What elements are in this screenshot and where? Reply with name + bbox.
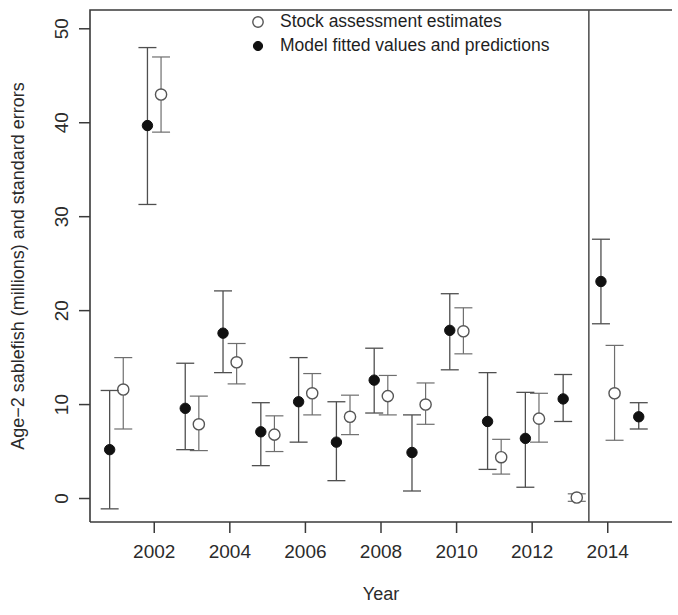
- data-point-1-2009: [407, 447, 417, 457]
- x-tick-label-2010: 2010: [435, 541, 477, 562]
- data-point-0-2001: [118, 384, 129, 395]
- x-tick-label-2002: 2002: [133, 541, 175, 562]
- y-axis-title: Age−2 sablefish (millions) and standard …: [8, 82, 28, 450]
- x-tick-label-2012: 2012: [511, 541, 553, 562]
- data-point-1-2012: [520, 433, 530, 443]
- chart-figure: 010203040502002200420062008201020122014Y…: [0, 0, 678, 615]
- y-tick-label-40: 40: [51, 112, 72, 133]
- y-tick-label-50: 50: [51, 18, 72, 39]
- data-point-0-2009: [420, 399, 431, 410]
- data-point-1-2004: [218, 328, 228, 338]
- data-point-0-2002: [155, 89, 166, 100]
- legend-label-0: Stock assessment estimates: [280, 11, 502, 31]
- legend-label-1: Model fitted values and predictions: [280, 35, 550, 55]
- data-point-0-2014: [609, 388, 620, 399]
- data-point-1-2014: [596, 276, 606, 286]
- data-point-1-2002: [142, 120, 152, 130]
- data-point-0-2012: [533, 413, 544, 424]
- data-point-1-2001: [104, 444, 114, 454]
- data-point-0-2013: [571, 492, 582, 503]
- data-point-0-2007: [344, 411, 355, 422]
- data-point-0-2006: [307, 388, 318, 399]
- y-tick-label-30: 30: [51, 206, 72, 227]
- data-point-1-2010: [445, 325, 455, 335]
- x-tick-label-2006: 2006: [284, 541, 326, 562]
- y-tick-label-0: 0: [51, 493, 72, 504]
- data-point-0-2004: [231, 357, 242, 368]
- y-tick-label-20: 20: [51, 300, 72, 321]
- data-point-1-2011: [482, 416, 492, 426]
- scatter-plot-svg: 010203040502002200420062008201020122014Y…: [0, 0, 678, 615]
- legend-marker-1: [253, 41, 262, 50]
- data-point-1-2015: [634, 412, 644, 422]
- legend-marker-0: [253, 17, 263, 27]
- data-point-0-2003: [193, 419, 204, 430]
- y-tick-label-10: 10: [51, 394, 72, 415]
- x-tick-label-2014: 2014: [587, 541, 630, 562]
- x-tick-label-2004: 2004: [209, 541, 252, 562]
- plot-frame: [90, 10, 672, 522]
- data-point-0-2010: [458, 326, 469, 337]
- x-axis-title: Year: [363, 584, 399, 604]
- data-point-0-2005: [269, 429, 280, 440]
- data-point-1-2006: [293, 397, 303, 407]
- data-point-1-2003: [180, 403, 190, 413]
- data-point-1-2005: [256, 427, 266, 437]
- data-point-1-2007: [331, 437, 341, 447]
- data-point-0-2008: [382, 391, 393, 402]
- x-tick-label-2008: 2008: [360, 541, 402, 562]
- data-point-1-2013: [558, 394, 568, 404]
- data-point-1-2008: [369, 375, 379, 385]
- data-point-0-2011: [496, 452, 507, 463]
